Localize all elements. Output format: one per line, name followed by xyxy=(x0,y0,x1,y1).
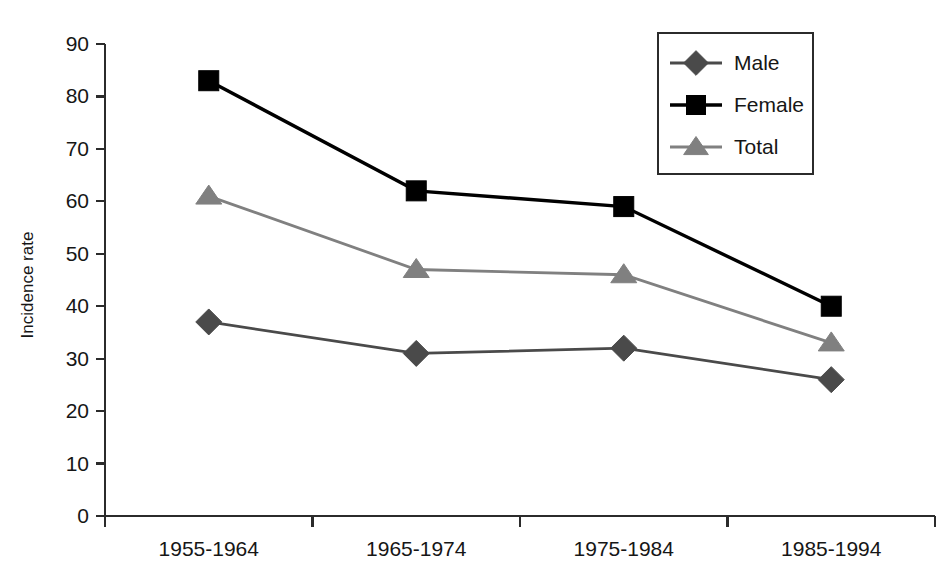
y-tick-label: 70 xyxy=(66,137,89,160)
series-line-male xyxy=(209,322,832,380)
line-chart: Incidence rate 0102030405060708090 1955-… xyxy=(0,0,948,583)
y-tick-label: 0 xyxy=(77,504,89,527)
data-point-square xyxy=(406,181,426,201)
y-axis-title-group: Incidence rate xyxy=(18,232,37,339)
y-axis-ticks: 0102030405060708090 xyxy=(66,32,105,527)
x-tick-label: 1965-1974 xyxy=(366,537,467,560)
y-axis-title: Incidence rate xyxy=(18,232,37,339)
data-point-diamond xyxy=(403,340,429,366)
x-tick-label: 1975-1984 xyxy=(574,537,675,560)
data-point-diamond xyxy=(611,335,637,361)
data-point-square xyxy=(821,296,841,316)
y-tick-label: 20 xyxy=(66,399,89,422)
legend-label: Total xyxy=(734,135,778,158)
data-point-triangle xyxy=(403,258,429,277)
series-markers-total xyxy=(196,185,845,351)
data-point-square xyxy=(199,71,219,91)
x-tick-label: 1985-1994 xyxy=(781,537,882,560)
data-point-triangle xyxy=(196,185,222,204)
legend-item-female[interactable]: Female xyxy=(670,93,804,116)
data-point-square xyxy=(687,96,706,115)
y-tick-label: 30 xyxy=(66,347,89,370)
data-point-diamond xyxy=(196,309,222,335)
y-tick-label: 50 xyxy=(66,242,89,265)
data-point-square xyxy=(614,197,634,217)
data-point-diamond xyxy=(818,367,844,393)
y-tick-label: 10 xyxy=(66,452,89,475)
series-line-total xyxy=(209,196,832,343)
x-tick-label: 1955-1964 xyxy=(159,537,260,560)
x-axis-ticks: 1955-19641965-19741975-19841985-1994 xyxy=(105,516,935,560)
chart-legend: MaleFemaleTotal xyxy=(658,33,813,174)
legend-label: Male xyxy=(734,51,780,74)
legend-label: Female xyxy=(734,93,804,116)
y-tick-label: 60 xyxy=(66,189,89,212)
y-tick-label: 90 xyxy=(66,32,89,55)
y-tick-label: 40 xyxy=(66,294,89,317)
y-tick-label: 80 xyxy=(66,84,89,107)
chart-container: Incidence rate 0102030405060708090 1955-… xyxy=(0,0,948,583)
